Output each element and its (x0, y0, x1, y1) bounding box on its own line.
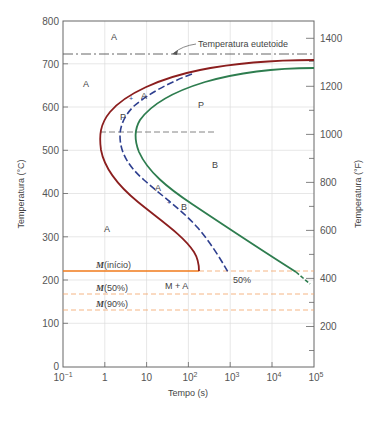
region-label-bainite: B (212, 160, 218, 170)
tick-label: 400 (320, 273, 337, 284)
region-label-pearlite: P (120, 112, 126, 122)
tick-label: 500 (42, 145, 59, 156)
svg-text:104: 104 (266, 371, 281, 383)
right-y-tick-labels: 1400 1200 1000 800 600 400 200 (320, 33, 343, 332)
svg-text:+: + (167, 199, 171, 206)
left-y-ticks (63, 64, 68, 324)
right-y-ticks (306, 38, 314, 350)
y-axis-title-left: Temperatura (°C) (16, 159, 26, 228)
region-label-bainite: B (181, 202, 187, 212)
x-axis-title: Tempo (s) (168, 388, 208, 398)
region-label-austenite: A (83, 79, 89, 89)
tick-label: 700 (42, 59, 59, 70)
tick-label: 400 (42, 188, 59, 199)
left-y-tick-labels: 800 700 600 500 400 300 200 100 0 (42, 16, 59, 372)
transformation-start-curve (100, 60, 314, 271)
tick-label: 600 (42, 102, 59, 113)
svg-text:+: + (129, 95, 133, 102)
tick-label: 800 (320, 177, 337, 188)
tick-label: 800 (42, 16, 59, 27)
transformation-finish-curve (136, 68, 314, 272)
m-start-label: M(início) (95, 260, 131, 270)
x-ticks (105, 362, 272, 367)
svg-text:10−1: 10−1 (53, 371, 72, 383)
tick-label: 1200 (320, 81, 343, 92)
fifty-percent-label: 50% (233, 275, 251, 285)
svg-text:102: 102 (182, 371, 197, 383)
tick-label: 200 (320, 321, 337, 332)
region-label-austenite: A (104, 224, 110, 234)
tick-label: 300 (42, 232, 59, 243)
ttt-chart: 800 700 600 500 400 300 200 100 0 1400 1… (0, 0, 375, 421)
tick-label: 100 (42, 318, 59, 329)
svg-text:105: 105 (308, 371, 323, 383)
m50-label: M(50%) (95, 283, 128, 293)
svg-text:103: 103 (224, 371, 239, 383)
fifty-percent-curve (120, 74, 228, 272)
tick-label: 1000 (320, 129, 343, 140)
eutectoid-label: Temperatura eutetoide (198, 39, 288, 49)
m90-label: M(90%) (95, 299, 128, 309)
tick-label: 0 (53, 361, 59, 372)
region-label-austenite: A (111, 32, 117, 42)
region-label-m-plus-a: M + A (165, 281, 188, 291)
tick-label: 600 (320, 225, 337, 236)
tick-label: 200 (42, 275, 59, 286)
region-label-austenite: A (141, 91, 147, 101)
y-axis-title-right: Temperatura (°F) (353, 160, 363, 228)
tick-label: 1400 (320, 33, 343, 44)
x-tick-labels: 10−1 1 10 102 103 104 105 (53, 371, 323, 383)
tick-label: 1 (102, 372, 108, 383)
tick-label: 10 (141, 372, 153, 383)
region-label-austenite: A (155, 183, 161, 193)
region-label-pearlite: P (198, 100, 204, 110)
